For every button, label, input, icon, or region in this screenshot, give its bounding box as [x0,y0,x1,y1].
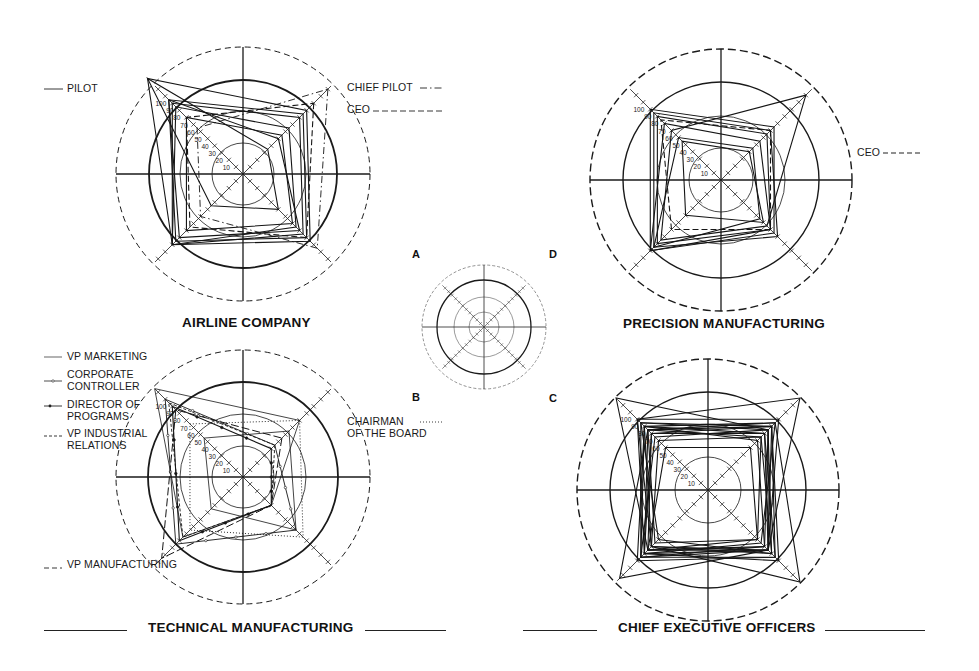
svg-text:30: 30 [209,453,217,460]
legend-chairman-1: CHAIRMAN [347,415,404,427]
svg-text:30: 30 [674,466,682,473]
legend-ceo-precision: CEO [857,146,880,158]
key-letter-d: D [549,248,557,260]
legend-vp-industrial-1: VP INDUSTRIAL [67,427,147,439]
legend-director-programs-2: PROGRAMS [67,410,129,422]
legend-corporate-controller-2: CONTROLLER [67,380,140,392]
svg-text:50: 50 [194,439,202,446]
svg-text:10: 10 [223,164,231,171]
legend-director-programs-1: DIRECTOR OF [67,398,140,410]
legend-corporate-controller-1: CORPORATE [67,368,134,380]
key-letter-b: B [412,391,420,403]
key-diagram [422,265,546,389]
ceo-radar-chart: 102030405060708090100 [577,359,839,621]
legend-ceo-airline: CEO [347,103,370,115]
rule-technical-left [44,630,127,631]
svg-text:20: 20 [216,460,224,467]
svg-text:80: 80 [173,114,181,121]
svg-text:70: 70 [180,425,188,432]
airline-radar-chart: 102030405060708090100 [116,47,370,301]
legend-pilot: PILOT [67,82,98,94]
rule-ceo-right [825,630,925,631]
svg-text:30: 30 [209,150,217,157]
title-precision: PRECISION MANUFACTURING [623,316,825,331]
svg-text:40: 40 [201,143,209,150]
svg-text:50: 50 [194,136,202,143]
svg-text:10: 10 [688,480,696,487]
legend-chief-pilot: CHIEF PILOT [347,81,413,93]
svg-text:30: 30 [687,156,695,163]
svg-text:40: 40 [666,459,674,466]
figure-canvas: 102030405060708090100 102030405060708090… [0,0,979,671]
rule-ceo-left [523,630,597,631]
title-technical: TECHNICAL MANUFACTURING [148,620,353,635]
svg-text:100: 100 [633,106,644,113]
svg-text:10: 10 [223,467,231,474]
svg-text:10: 10 [701,170,709,177]
legend-chairman-2: OF THE BOARD [347,427,427,439]
precision-radar-chart: 102030405060708090100 [590,49,852,311]
svg-text:60: 60 [665,135,673,142]
title-airline: AIRLINE COMPANY [182,315,311,330]
svg-text:20: 20 [216,157,224,164]
svg-text:60: 60 [187,432,195,439]
key-letter-c: C [549,392,557,404]
svg-text:20: 20 [681,473,689,480]
key-letter-a: A [412,248,420,260]
svg-text:60: 60 [187,129,195,136]
svg-text:100: 100 [155,403,166,410]
legend-vp-industrial-2: RELATIONS [67,439,127,451]
title-ceo: CHIEF EXECUTIVE OFFICERS [618,620,816,635]
rule-technical-right [365,630,446,631]
svg-text:50: 50 [659,452,667,459]
series-polygon [637,398,800,554]
legend-vp-marketing: VP MARKETING [67,350,147,362]
svg-text:20: 20 [694,163,702,170]
svg-text:100: 100 [620,416,631,423]
legend-vp-manufacturing: VP MANUFACTURING [67,558,177,570]
